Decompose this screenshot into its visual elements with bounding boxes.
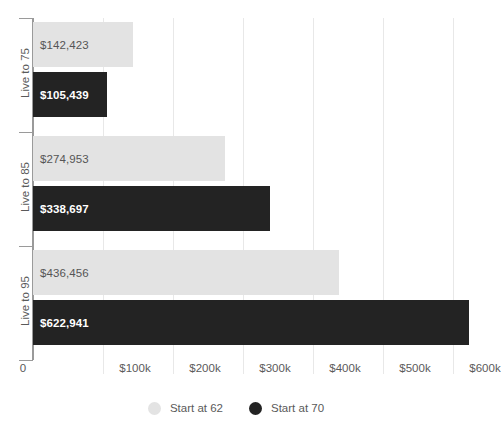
category-label-2: Live to 85 bbox=[0, 181, 22, 193]
x-tick-label: $500k bbox=[399, 362, 430, 374]
category-label-1: Live to 75 bbox=[0, 67, 22, 79]
x-tick-label: $300k bbox=[259, 362, 290, 374]
bar-value-label: $622,941 bbox=[40, 317, 89, 329]
x-tick-label: $600k bbox=[469, 362, 500, 374]
bar-value-label: $274,953 bbox=[40, 153, 89, 165]
bar-value-label: $142,423 bbox=[40, 39, 89, 51]
legend-label: Start at 62 bbox=[170, 402, 223, 414]
x-tick-label: $200k bbox=[189, 362, 220, 374]
bar-3-1[interactable]: $436,456 bbox=[33, 250, 339, 295]
legend-swatch-light-icon bbox=[148, 402, 161, 415]
bar-value-label: $338,697 bbox=[40, 203, 89, 215]
bar-value-label: $436,456 bbox=[40, 267, 89, 279]
x-tick-mark bbox=[453, 360, 454, 374]
category-tick bbox=[19, 246, 33, 247]
bar-1-2[interactable]: $105,439 bbox=[33, 72, 107, 117]
x-tick-mark bbox=[173, 360, 174, 374]
category-tick bbox=[19, 360, 33, 361]
category-label-3: Live to 95 bbox=[0, 295, 22, 307]
bar-rect bbox=[33, 300, 469, 345]
x-axis: 0$100k$200k$300k$400k$500k$600k bbox=[0, 360, 472, 382]
x-tick-mark bbox=[313, 360, 314, 374]
x-tick-label: 0 bbox=[20, 362, 26, 374]
category-tick bbox=[19, 132, 33, 133]
legend-label: Start at 70 bbox=[271, 402, 324, 414]
legend-swatch-dark-icon bbox=[249, 402, 262, 415]
chart-legend: Start at 62 Start at 70 bbox=[0, 396, 472, 420]
bar-3-2[interactable]: $622,941 bbox=[33, 300, 469, 345]
x-tick-label: $400k bbox=[329, 362, 360, 374]
bar-1-1[interactable]: $142,423 bbox=[33, 22, 133, 67]
legend-item-start-at-70[interactable]: Start at 70 bbox=[249, 402, 324, 415]
x-tick-mark bbox=[243, 360, 244, 374]
bar-2-1[interactable]: $274,953 bbox=[33, 136, 225, 181]
x-tick-label: $100k bbox=[119, 362, 150, 374]
x-tick-mark bbox=[103, 360, 104, 374]
legend-item-start-at-62[interactable]: Start at 62 bbox=[148, 402, 223, 415]
x-tick-mark bbox=[383, 360, 384, 374]
category-tick bbox=[19, 18, 33, 19]
bar-2-2[interactable]: $338,697 bbox=[33, 186, 270, 231]
bar-value-label: $105,439 bbox=[40, 89, 89, 101]
